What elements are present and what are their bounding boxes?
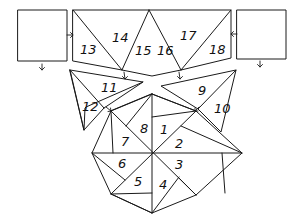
face-label-5: 5 bbox=[134, 174, 142, 189]
arrow-left-icon bbox=[231, 32, 237, 37]
face-label-9: 9 bbox=[198, 83, 206, 98]
right-square bbox=[237, 10, 286, 59]
face-label-16: 16 bbox=[157, 43, 174, 58]
face-label-15: 15 bbox=[135, 43, 152, 58]
face-label-17: 17 bbox=[180, 28, 197, 43]
arrow-down-icon bbox=[178, 72, 183, 79]
arrow-right-icon bbox=[67, 33, 73, 38]
face-label-1: 1 bbox=[160, 122, 168, 137]
arrow-down-icon bbox=[123, 72, 128, 79]
face-label-13: 13 bbox=[80, 42, 97, 57]
face-label-3: 3 bbox=[175, 157, 183, 172]
face-label-2: 2 bbox=[175, 136, 183, 151]
left-square bbox=[18, 10, 67, 61]
arrow-down-icon bbox=[40, 64, 45, 70]
face-label-11: 11 bbox=[101, 80, 118, 95]
face-label-7: 7 bbox=[121, 134, 130, 149]
folding-net-diagram: 13 14 15 16 17 18 11 12 9 10 1 2 3 4 5 6… bbox=[0, 0, 302, 219]
face-label-10: 10 bbox=[214, 101, 231, 116]
face-label-4: 4 bbox=[159, 177, 167, 192]
face-label-12: 12 bbox=[82, 99, 99, 114]
arrow-down-right-icon bbox=[106, 107, 111, 112]
face-label-18: 18 bbox=[209, 42, 226, 57]
face-label-6: 6 bbox=[118, 156, 126, 171]
face-label-8: 8 bbox=[140, 121, 148, 136]
arrow-down-icon bbox=[258, 61, 263, 67]
top-band bbox=[73, 10, 231, 76]
face-label-14: 14 bbox=[112, 30, 129, 45]
